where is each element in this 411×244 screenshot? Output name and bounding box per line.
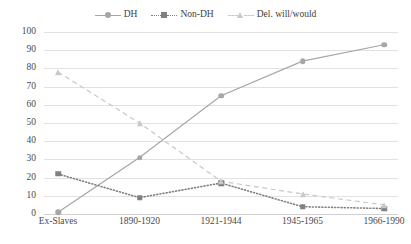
- legend-item-dh[interactable]: DH: [95, 10, 138, 20]
- y-axis-tick-label: 0: [31, 209, 36, 219]
- line-square-marker-icon: [151, 11, 177, 20]
- plot-area: [44, 32, 398, 214]
- legend-label: Non-DH: [180, 10, 213, 20]
- x-axis-tick-label: 1945-1965: [282, 217, 323, 227]
- y-axis-tick-label: 60: [27, 100, 37, 110]
- x-axis: Ex-Slaves1890-19201921-19441945-19651966…: [44, 217, 398, 233]
- series-lines: [44, 32, 398, 214]
- y-axis-tick-label: 90: [27, 45, 37, 55]
- legend-item-non-dh[interactable]: Non-DH: [151, 10, 213, 20]
- series-line-del-will-would: [58, 72, 384, 205]
- legend-marker: [237, 12, 243, 18]
- x-axis-tick-label: Ex-Slaves: [39, 217, 78, 227]
- y-axis-tick-label: 30: [27, 155, 37, 165]
- line-chart: DHNon-DHDel. will/would 1009080706050403…: [0, 0, 411, 244]
- series-line-dh: [58, 45, 384, 212]
- gridline-0: [44, 214, 398, 215]
- line-triangle-marker-icon: [228, 11, 254, 20]
- y-axis-tick-label: 10: [27, 191, 37, 201]
- x-axis-tick-label: 1921-1944: [200, 217, 241, 227]
- x-axis-tick-label: 1966-1990: [363, 217, 404, 227]
- y-axis-tick-label: 80: [27, 64, 37, 74]
- legend-item-del-will-would[interactable]: Del. will/would: [228, 10, 317, 20]
- y-axis-tick-label: 40: [27, 136, 37, 146]
- line-circle-marker-icon: [95, 11, 121, 20]
- y-axis-tick-label: 50: [27, 118, 37, 128]
- legend-label: DH: [124, 10, 138, 20]
- y-axis-tick-label: 70: [27, 82, 37, 92]
- chart-legend: DHNon-DHDel. will/would: [0, 6, 411, 24]
- x-axis-tick-label: 1890-1920: [119, 217, 160, 227]
- y-axis: 1009080706050403020100: [0, 32, 40, 214]
- y-axis-tick-label: 20: [27, 173, 37, 183]
- y-axis-tick-label: 100: [22, 27, 36, 37]
- legend-label: Del. will/would: [257, 10, 317, 20]
